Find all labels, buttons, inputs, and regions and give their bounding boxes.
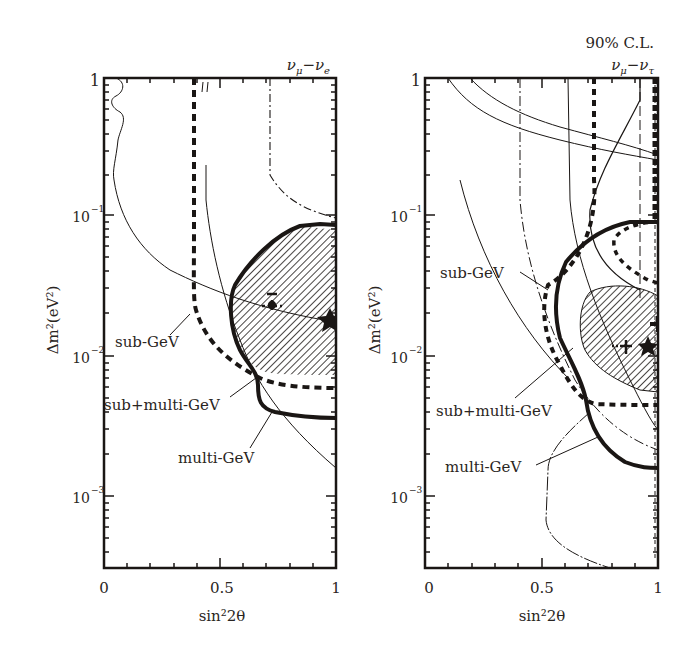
- left-xlabel: sin²2θ: [199, 607, 246, 625]
- left-xtick-0.5: 0.5: [210, 579, 234, 597]
- confidence-level-label: 90% C.L.: [585, 34, 654, 52]
- left-ytick-0.1-exp: −1: [91, 204, 104, 214]
- right-label-sub-gev: sub-GeV: [440, 264, 505, 282]
- left-ytick-0.01: 10: [72, 350, 90, 366]
- right-ylabel: Δm²(eV²): [366, 286, 384, 355]
- left-dashdot-curve: [270, 78, 336, 218]
- left-xtick-1: 1: [331, 579, 341, 597]
- left-title: νμ−νe: [287, 56, 330, 76]
- right-xtick-1: 1: [653, 579, 663, 597]
- right-plot-area: [448, 78, 666, 568]
- right-label-sub-multi-gev: sub+multi-GeV: [436, 402, 553, 420]
- right-xlabel: sin²2θ: [519, 607, 566, 625]
- right-top-curve-1: [448, 78, 658, 160]
- left-label-sub-gev: sub-GeV: [115, 333, 180, 351]
- left-ytick-0.001-exp: −3: [91, 485, 105, 495]
- right-ytick-1: 1: [411, 71, 421, 90]
- right-sub-gev-inner-curve: [614, 222, 658, 283]
- left-arrow-sub-gev: [170, 314, 190, 335]
- left-arrow-multi-gev: [250, 412, 272, 448]
- right-label-multi-gev: multi-GeV: [445, 458, 522, 476]
- left-ylabel: Δm²(eV²): [44, 286, 62, 355]
- right-xtick-0: 0: [424, 579, 434, 597]
- right-multi-gev-curve: [590, 78, 640, 290]
- left-panel: νμ−νe: [44, 56, 343, 625]
- right-ytick-0.001: 10: [390, 490, 408, 506]
- left-label-multi-gev: multi-GeV: [178, 449, 255, 467]
- right-arrow-sub-multi-gev: [515, 348, 573, 398]
- left-ytick-1: 1: [90, 71, 100, 90]
- figure: νμ−νe: [0, 0, 692, 651]
- left-label-sub-multi-gev: sub+multi-GeV: [104, 396, 221, 414]
- right-hatched-region: [580, 286, 658, 392]
- right-ytick-0.001-exp: −3: [409, 485, 423, 495]
- left-ytick-0.1: 10: [72, 209, 90, 225]
- right-ytick-0.1: 10: [390, 209, 408, 225]
- left-mark: [207, 82, 208, 92]
- left-ytick-0.01-exp: −2: [91, 345, 104, 355]
- right-ytick-0.1-exp: −1: [409, 204, 422, 214]
- left-xtick-0: 0: [99, 579, 109, 597]
- right-ytick-0.01-exp: −2: [409, 345, 422, 355]
- left-arrow-sub-multi-gev: [230, 378, 256, 397]
- right-top-curve-2: [470, 78, 658, 155]
- left-mark: [202, 82, 203, 92]
- right-xtick-0.5: 0.5: [530, 579, 554, 597]
- right-panel: 90% C.L. νμ−ντ: [366, 34, 666, 625]
- right-lower-boundary: [546, 412, 610, 568]
- left-ytick-0.001: 10: [72, 490, 90, 506]
- right-title: νμ−ντ: [611, 56, 654, 76]
- right-ytick-0.01: 10: [390, 350, 408, 366]
- left-hatched-region: [231, 226, 336, 375]
- right-arrow-multi-gev: [536, 437, 598, 465]
